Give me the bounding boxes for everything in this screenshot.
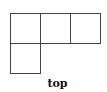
cell-r0-c0 [10, 13, 41, 44]
cell-r1-c0 [10, 43, 41, 74]
cell-r0-c1 [40, 13, 71, 44]
view-label: top [0, 78, 107, 90]
cell-r0-c2 [70, 13, 101, 44]
